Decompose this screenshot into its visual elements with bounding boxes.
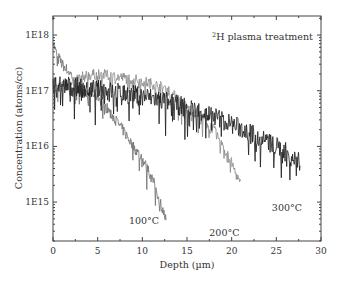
x-tick-label: 5 [95, 246, 101, 256]
chart-title-text: H plasma treatment [216, 31, 313, 42]
curve-label: 100°C [129, 215, 159, 226]
y-tick-label: 1E18 [25, 30, 49, 40]
x-tick-label: 20 [226, 246, 238, 256]
x-tick-label: 25 [271, 246, 283, 256]
y-tick-label: 1E15 [25, 197, 49, 207]
x-tick-label: 15 [181, 246, 193, 256]
chart: 051015202530 1E151E161E171E18 Depth (µm)… [0, 0, 340, 284]
y-tick-label: 1E17 [25, 86, 49, 96]
curve-annotations: 100°C200°C300°C [129, 202, 302, 238]
chart-title: 2H plasma treatment [212, 31, 313, 42]
curve-300c [53, 77, 300, 180]
curve-label: 300°C [272, 202, 302, 213]
y-axis-title: Concentration (atoms/cc) [13, 67, 24, 189]
x-axis: 051015202530 [50, 16, 327, 256]
x-axis-title: Depth (µm) [160, 259, 215, 270]
x-tick-label: 0 [50, 246, 56, 256]
data-curves [53, 43, 300, 221]
curve-100c [53, 43, 166, 221]
x-tick-label: 10 [137, 246, 149, 256]
x-tick-label: 30 [315, 246, 327, 256]
y-tick-label: 1E16 [25, 141, 49, 151]
curve-label: 200°C [209, 227, 239, 238]
